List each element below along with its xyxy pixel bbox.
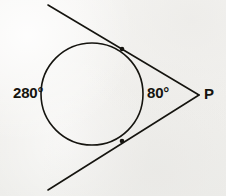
vertex-point-label: P	[204, 86, 214, 101]
circle-shape	[41, 43, 143, 145]
geometry-diagram-canvas: 280° 80° P	[0, 0, 226, 196]
minor-arc-label: 80°	[147, 85, 169, 100]
lower-tangent-point-icon	[120, 139, 125, 144]
upper-tangent-point-icon	[120, 47, 125, 52]
major-arc-label: 280°	[13, 85, 43, 100]
